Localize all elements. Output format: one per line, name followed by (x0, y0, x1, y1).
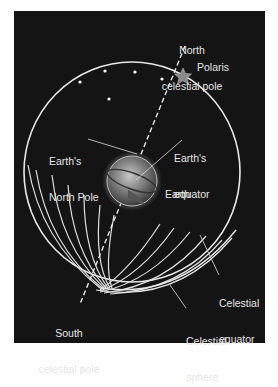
label-line: Earth's (174, 152, 210, 164)
label-line: Celestial (186, 335, 226, 347)
label-line: Celestial (219, 297, 259, 309)
label-line: South (33, 327, 105, 339)
label-polaris: Polaris (197, 61, 229, 73)
label-earths-north-pole: Earth's North Pole (49, 131, 99, 215)
leader-celestial-sphere (170, 285, 186, 308)
label-line: Earth's (49, 155, 99, 167)
label-celestial-sphere: Celestial sphere (186, 311, 226, 387)
label-line: celestial pole (157, 80, 227, 92)
label-line: celestial pole (33, 363, 105, 375)
label-line: North (157, 44, 227, 56)
label-line: sphere (186, 371, 226, 383)
label-earth: Earth (165, 188, 190, 200)
label-line: North Pole (49, 191, 99, 203)
label-south-celestial-pole: South celestial pole (33, 303, 105, 387)
stars (78, 69, 163, 100)
